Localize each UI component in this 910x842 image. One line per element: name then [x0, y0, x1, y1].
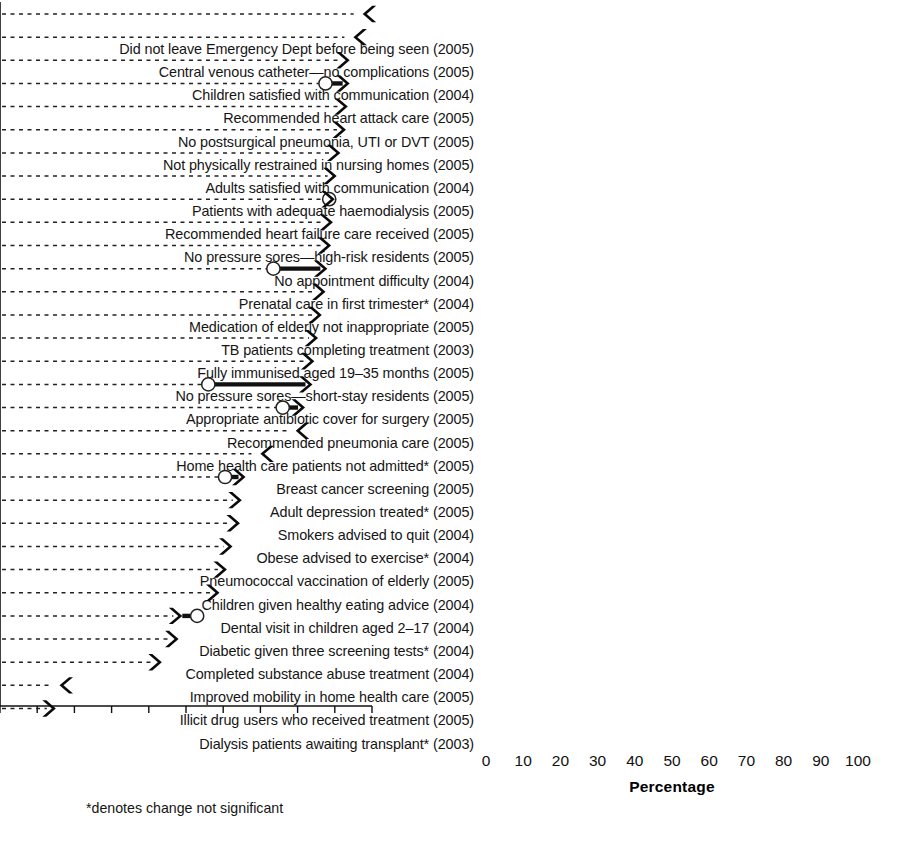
data-row — [2, 75, 350, 91]
baseline-marker-circle — [191, 609, 204, 622]
decrease-arrow-icon — [260, 446, 274, 462]
data-row — [2, 237, 331, 253]
decrease-arrow-icon — [60, 677, 73, 693]
decrease-arrow-icon — [296, 423, 310, 439]
footnote-significance: *denotes change not significant — [86, 800, 283, 816]
data-row — [2, 538, 233, 554]
data-row — [2, 191, 336, 207]
data-row — [2, 631, 179, 647]
increase-arrow-icon — [169, 608, 183, 624]
x-axis-tick-label: 50 — [663, 752, 680, 770]
data-row — [2, 700, 56, 716]
data-row — [2, 145, 340, 161]
data-row — [2, 122, 346, 138]
data-row — [2, 6, 376, 22]
data-row — [2, 515, 240, 531]
x-axis-tick-label: 20 — [552, 752, 569, 770]
data-row — [2, 168, 337, 184]
decrease-arrow-icon — [353, 29, 367, 45]
increase-arrow-icon — [305, 330, 319, 346]
baseline-marker-circle — [319, 77, 332, 90]
data-row — [2, 98, 348, 114]
x-axis-tick-label: 90 — [812, 752, 829, 770]
decrease-arrow-icon — [363, 6, 377, 22]
baseline-marker-circle — [202, 378, 215, 391]
baseline-marker-circle — [267, 262, 280, 275]
increase-arrow-icon — [226, 515, 240, 531]
data-row — [2, 214, 333, 230]
x-axis-tick-label: 30 — [589, 752, 606, 770]
x-axis-tick-label: 70 — [738, 752, 755, 770]
x-axis-tick-labels: 0102030405060708090100 — [486, 752, 910, 774]
data-row — [2, 353, 314, 369]
data-row — [2, 29, 367, 45]
data-row — [2, 677, 73, 693]
data-row — [2, 399, 305, 415]
x-axis-tick-label: 40 — [626, 752, 643, 770]
data-row — [2, 260, 327, 276]
x-axis-tick-label: 80 — [775, 752, 792, 770]
increase-arrow-icon — [336, 52, 350, 68]
data-row — [2, 469, 246, 485]
data-row — [2, 376, 312, 392]
data-row — [2, 608, 204, 624]
increase-arrow-icon — [42, 700, 56, 716]
data-row — [2, 52, 350, 68]
x-axis-title: Percentage — [486, 778, 858, 796]
x-axis-tick-label: 0 — [482, 752, 491, 770]
increase-arrow-icon — [219, 538, 233, 554]
data-row — [2, 423, 309, 439]
data-row — [2, 492, 242, 508]
x-axis-tick-label: 60 — [701, 752, 718, 770]
x-axis-tick-label: 100 — [845, 752, 871, 770]
x-axis-tick-label: 10 — [515, 752, 532, 770]
baseline-marker-circle — [276, 401, 289, 414]
increase-arrow-icon — [319, 214, 333, 230]
data-row — [2, 307, 322, 323]
data-row — [2, 284, 326, 300]
percentage-change-chart: Did not leave Emergency Dept before bein… — [0, 0, 910, 842]
plot-area — [0, 0, 424, 760]
baseline-marker-circle — [218, 470, 231, 483]
data-row — [2, 585, 219, 601]
data-row — [2, 561, 227, 577]
data-row — [2, 330, 318, 346]
increase-arrow-icon — [312, 284, 326, 300]
data-row — [2, 446, 274, 462]
increase-arrow-icon — [228, 492, 242, 508]
data-row — [2, 654, 162, 670]
